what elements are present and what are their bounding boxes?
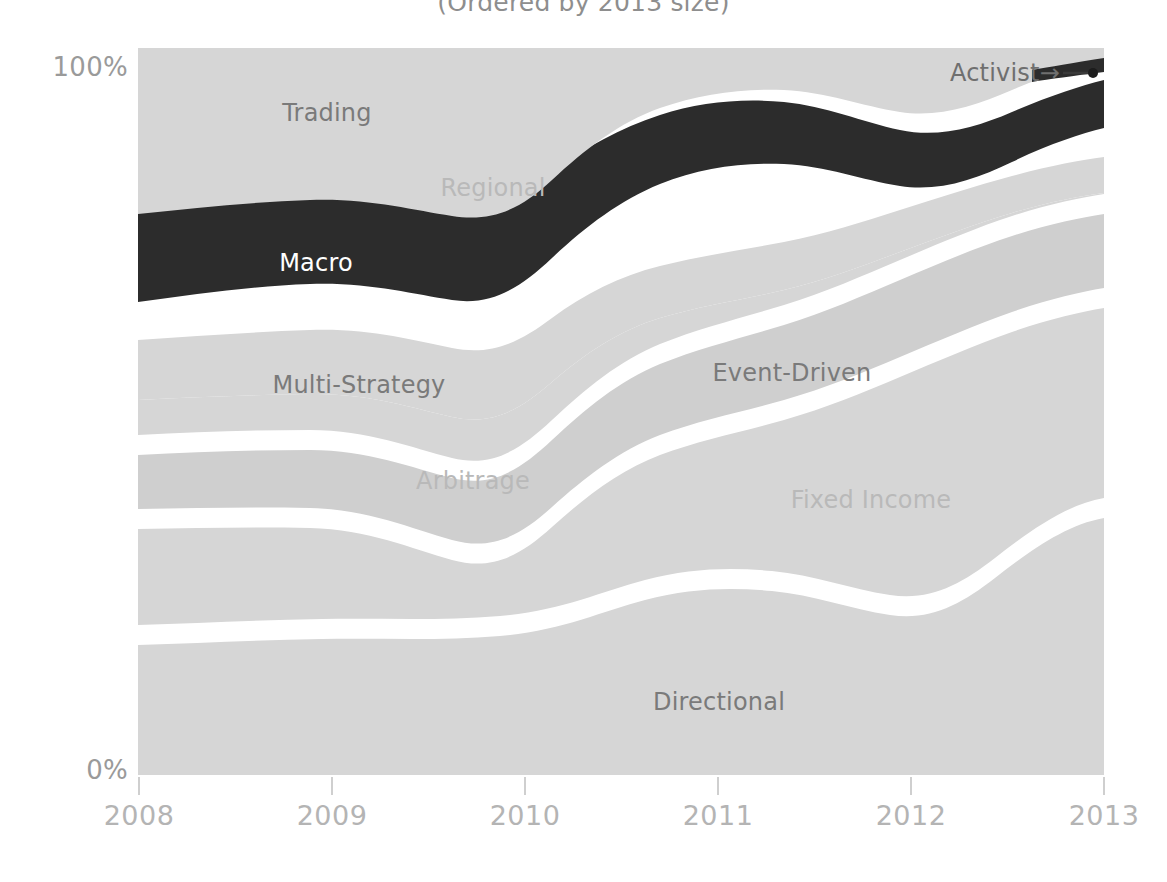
x-axis-label-2010: 2010 <box>490 800 561 831</box>
x-axis-ticks <box>139 777 1104 795</box>
band-label-trading: Trading <box>282 99 371 127</box>
band-label-directional: Directional <box>653 688 785 716</box>
arrow-icon: → <box>1040 59 1060 87</box>
band-label-fixed-income: Fixed Income <box>791 486 952 514</box>
band-label-regional: Regional <box>440 174 545 202</box>
band-label-arbitrage: Arbitrage <box>416 467 530 495</box>
y-axis-label-top: 100% <box>18 52 128 82</box>
footer-cutoff-text <box>18 866 438 880</box>
x-axis-label-2011: 2011 <box>683 800 754 831</box>
band-label-multi-strategy: Multi-Strategy <box>273 371 446 399</box>
y-axis-label-bottom: 0% <box>18 755 128 785</box>
x-axis-label-2013: 2013 <box>1069 800 1140 831</box>
x-axis-label-2009: 2009 <box>297 800 368 831</box>
x-axis-label-2008: 2008 <box>104 800 175 831</box>
chart-canvas: (Ordered by 2013 size) <box>0 0 1167 882</box>
band-label-macro: Macro <box>279 249 353 277</box>
band-label-event-driven: Event-Driven <box>712 359 871 387</box>
activist-annotation-label: Activist <box>950 59 1040 87</box>
x-axis-label-2012: 2012 <box>876 800 947 831</box>
stream-area-chart <box>0 0 1167 882</box>
activist-annotation: Activist→ <box>950 59 1060 87</box>
